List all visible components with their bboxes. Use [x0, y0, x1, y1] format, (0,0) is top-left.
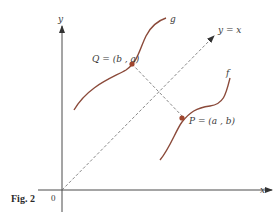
- reflection-connector: [132, 64, 184, 118]
- curve-g: [74, 18, 166, 110]
- inverse-function-diagram: y x 0 y = x g f Q = (b , a) P = (a , b): [0, 0, 279, 215]
- point-p-label: P = (a , b): [188, 116, 236, 126]
- point-p: [179, 115, 184, 120]
- point-q-label: Q = (b , a): [92, 54, 140, 64]
- figure-caption: Fig. 2: [11, 193, 35, 204]
- curve-g-label: g: [170, 14, 176, 24]
- origin-label: 0: [51, 193, 56, 203]
- y-axis-label: y: [57, 14, 64, 24]
- identity-line-label: y = x: [217, 25, 241, 35]
- x-axis-label: x: [260, 185, 265, 195]
- curve-f-label: f: [225, 68, 231, 78]
